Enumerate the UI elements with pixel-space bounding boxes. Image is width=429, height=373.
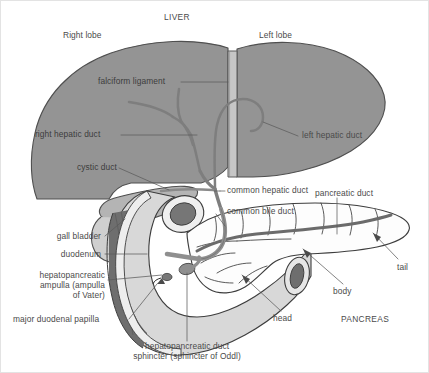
label-liver-title: LIVER xyxy=(164,13,190,23)
common-hepatic-duct-shape xyxy=(215,189,221,209)
label-right-lobe: Right lobe xyxy=(63,31,102,41)
label-common-hepatic-duct: common hepatic duct xyxy=(227,186,308,196)
hepatopancreatic-ampulla-shape xyxy=(162,273,172,280)
liver-right-lobe xyxy=(31,41,228,199)
label-pancreatic-duct: pancreatic duct xyxy=(315,189,373,199)
label-duodenum: duodenum xyxy=(1,250,101,260)
label-tail: tail xyxy=(397,263,408,273)
label-pancreas-title: PANCREAS xyxy=(341,315,389,325)
label-right-hepatic-duct: right hepatic duct xyxy=(35,130,100,140)
label-cystic-duct: cystic duct xyxy=(77,163,117,173)
anatomy-diagram-figure: LIVER Right lobe Left lobe falciform lig… xyxy=(0,0,429,373)
label-hepatopancreatic-ampulla-line3: of Vater) xyxy=(1,291,105,301)
label-common-bile-duct: common bile duct xyxy=(227,207,294,217)
label-sphincter-line2: sphincter (sphincter of Oddl) xyxy=(107,352,267,362)
label-body: body xyxy=(333,287,352,297)
label-left-hepatic-duct: left hepatic duct xyxy=(302,131,362,141)
label-head: head xyxy=(273,314,292,324)
label-falciform-ligament: falciform ligament xyxy=(98,77,165,87)
label-major-duodenal-papilla: major duodenal papilla xyxy=(13,315,99,325)
label-left-lobe: Left lobe xyxy=(259,31,292,41)
liver-left-lobe xyxy=(237,42,385,177)
label-gall-bladder: gall bladder xyxy=(1,232,101,242)
